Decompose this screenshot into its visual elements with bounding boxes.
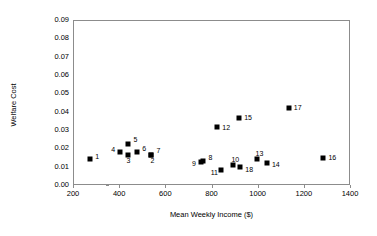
data-point-marker xyxy=(238,165,243,170)
x-tick-label: 1000 xyxy=(241,190,275,198)
x-tick-mark xyxy=(119,185,120,188)
y-tick-label: 0.08 xyxy=(41,34,69,42)
data-point-marker xyxy=(88,157,93,162)
y-axis-tick-labels: 0.000.010.020.030.040.050.060.070.080.09 xyxy=(37,0,69,236)
data-point-label: 9 xyxy=(192,160,196,167)
data-point-label: 4 xyxy=(111,146,115,153)
data-point-label: 12 xyxy=(222,124,230,131)
data-point-marker xyxy=(237,115,242,120)
data-point-marker xyxy=(118,150,123,155)
x-tick-mark xyxy=(350,185,351,188)
x-tick-label: 400 xyxy=(102,190,136,198)
y-tick-label: 0.04 xyxy=(41,108,69,116)
data-point-label: 17 xyxy=(294,104,302,111)
data-point-label: 2 xyxy=(150,157,154,164)
x-axis-title: Mean Weekly Income ($) xyxy=(73,210,350,219)
y-tick-mark xyxy=(106,185,109,186)
data-point-marker xyxy=(199,160,204,165)
data-point-label: 7 xyxy=(156,147,160,154)
data-point-marker xyxy=(264,161,269,166)
y-tick-label: 0.06 xyxy=(41,71,69,79)
y-tick-label: 0.03 xyxy=(41,126,69,134)
data-point-marker xyxy=(218,168,223,173)
y-tick-label: 0.01 xyxy=(41,163,69,171)
y-tick-label: 0.02 xyxy=(41,144,69,152)
y-axis-title: Welfare Cost xyxy=(7,60,21,150)
data-point-label: 14 xyxy=(272,161,280,168)
data-point-marker xyxy=(126,141,131,146)
y-tick-label: 0.09 xyxy=(41,16,69,24)
y-tick-label: 0.00 xyxy=(41,181,69,189)
data-point-label: 11 xyxy=(211,169,218,176)
x-tick-mark xyxy=(304,185,305,188)
scatter-chart: Welfare Cost 0.000.010.020.030.040.050.0… xyxy=(0,0,377,236)
data-point-label: 13 xyxy=(256,150,264,157)
data-point-marker xyxy=(149,152,154,157)
data-point-marker xyxy=(215,125,220,130)
x-tick-mark xyxy=(258,185,259,188)
y-tick-label: 0.05 xyxy=(41,89,69,97)
data-point-marker xyxy=(135,150,140,155)
y-tick-label: 0.07 xyxy=(41,53,69,61)
x-tick-mark xyxy=(165,185,166,188)
data-point-label: 8 xyxy=(208,154,212,161)
x-tick-label: 200 xyxy=(56,190,90,198)
data-point-label: 3 xyxy=(126,157,130,164)
data-point-label: 6 xyxy=(142,145,146,152)
x-tick-label: 1400 xyxy=(333,190,367,198)
x-tick-label: 600 xyxy=(148,190,182,198)
x-tick-mark xyxy=(212,185,213,188)
y-axis-title-text: Welfare Cost xyxy=(7,60,21,150)
data-point-label: 1 xyxy=(95,153,99,160)
data-point-marker xyxy=(321,155,326,160)
x-tick-label: 800 xyxy=(195,190,229,198)
data-point-label: 18 xyxy=(245,166,253,173)
data-point-label: 5 xyxy=(133,136,137,143)
data-point-marker xyxy=(254,156,259,161)
data-point-marker xyxy=(286,106,291,111)
x-tick-label: 1200 xyxy=(287,190,321,198)
x-tick-mark xyxy=(73,185,74,188)
data-point-label: 16 xyxy=(328,154,336,161)
data-point-marker xyxy=(231,163,236,168)
data-point-label: 10 xyxy=(231,156,239,163)
data-point-label: 15 xyxy=(244,114,252,121)
